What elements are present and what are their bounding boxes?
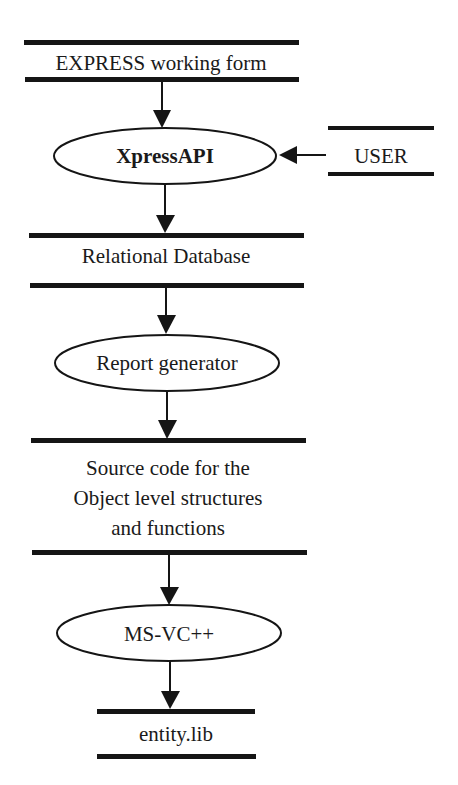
store-bottom-bar (25, 77, 299, 82)
store-top-bar (29, 233, 304, 238)
flow-diagram: EXPRESS working form XpressAPI USER Rela… (0, 0, 458, 785)
process-label: Report generator (96, 351, 238, 375)
store-user: USER (328, 126, 434, 176)
process-label: MS-VC++ (124, 622, 214, 646)
store-top-bar (97, 709, 255, 714)
arrow-head-icon (157, 315, 176, 334)
arrow-express-to-xpressapi (153, 82, 171, 128)
process-report-generator: Report generator (55, 335, 279, 391)
store-label: EXPRESS working form (55, 51, 266, 75)
arrow-head-icon (156, 215, 175, 233)
arrow-head-icon (158, 420, 177, 439)
arrow-head-icon (153, 110, 171, 128)
store-entity-lib: entity.lib (97, 709, 256, 759)
arrow-user-to-xpressapi (279, 146, 326, 164)
store-top-bar (328, 126, 434, 130)
arrow-head-icon (160, 587, 179, 605)
store-label: entity.lib (139, 722, 213, 746)
store-relational-database: Relational Database (29, 233, 304, 288)
process-xpressapi: XpressAPI (54, 128, 276, 184)
store-bottom-bar (328, 172, 434, 176)
store-label: Relational Database (82, 244, 251, 268)
store-bottom-bar (32, 550, 307, 555)
store-top-bar (24, 40, 299, 45)
store-label-line-2: Object level structures (74, 486, 263, 510)
arrow-msvc-to-entitylib (161, 661, 180, 709)
arrow-head-icon (161, 691, 180, 709)
arrow-source-to-msvc (160, 555, 179, 605)
store-bottom-bar (97, 754, 256, 759)
store-top-bar (31, 438, 306, 443)
arrow-reportgen-to-source (158, 391, 177, 439)
arrow-xpressapi-to-reldb (156, 184, 175, 233)
arrow-head-icon (279, 146, 297, 164)
arrow-reldb-to-reportgen (157, 288, 176, 334)
process-ms-vc: MS-VC++ (57, 605, 281, 661)
store-label-line-1: Source code for the (86, 456, 250, 480)
store-source-code: Source code for the Object level structu… (31, 438, 307, 555)
store-express-working-form: EXPRESS working form (24, 40, 299, 82)
store-label: USER (354, 144, 408, 168)
process-label: XpressAPI (116, 144, 214, 168)
store-label-line-3: and functions (111, 516, 225, 540)
store-bottom-bar (30, 283, 304, 288)
